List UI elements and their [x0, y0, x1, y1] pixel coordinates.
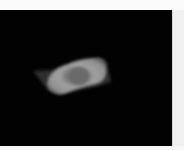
blob-object: [0, 0, 184, 150]
